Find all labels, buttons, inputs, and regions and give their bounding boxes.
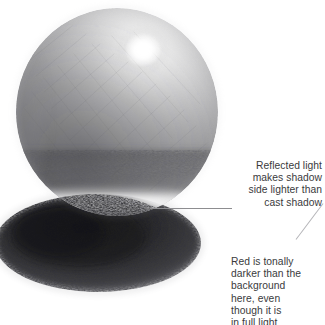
sphere-group (0, 8, 224, 220)
tonal-sphere-figure: Reflected light makes shadow side lighte… (0, 0, 325, 325)
annotation-red-tone: Red is tonally darker than the backgroun… (231, 256, 325, 325)
leader-line-reflected-light (150, 208, 232, 209)
annotation-reflected-light: Reflected light makes shadow side lighte… (222, 160, 322, 209)
